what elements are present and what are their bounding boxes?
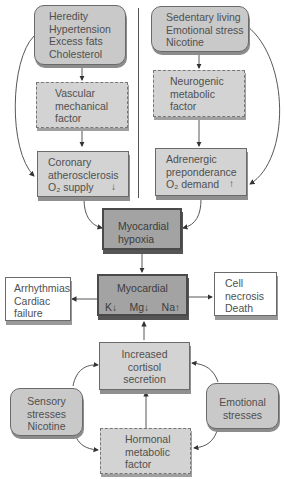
ion-list: K↓ Mg↓ Na↑ (99, 295, 186, 315)
node-necrosis-label: Cell necrosis Death (225, 277, 276, 315)
node-coronary: Coronary atherosclerosis O₂ supply ↓ (37, 151, 129, 197)
node-cortisol: Increased cortisol secretion (99, 342, 190, 390)
node-sensory: Sensory stresses Nicotine (10, 388, 83, 436)
ion-k: K↓ (105, 301, 117, 315)
node-vascular: Vascular mechanical factor (36, 82, 128, 128)
node-vascular-label: Vascular mechanical factor (55, 87, 127, 125)
node-emotional-label: Emotional stresses (207, 396, 278, 421)
node-hormonal-label: Hormonal metabolic factor (125, 433, 190, 471)
column-divider (138, 8, 139, 198)
node-coronary-label: Coronary atherosclerosis (48, 156, 128, 181)
node-adrenergic-label: Adrenergic preponderance (166, 153, 246, 178)
node-sedentary: Sedentary living Emotional stress Nicoti… (151, 6, 249, 52)
node-myocardial-hypoxia: Myocardial hypoxia (102, 208, 182, 250)
arrow-down-icon: ↓ (111, 181, 116, 194)
node-myocardial-label: Myocardial (99, 282, 186, 295)
node-neurogenic-label: Neurogenic metabolic factor (170, 75, 244, 113)
arrow-down-icon: ↓ (112, 302, 117, 313)
node-hypoxia-label: Myocardial hypoxia (118, 220, 180, 245)
node-coronary-supply: O₂ supply ↓ (48, 181, 128, 194)
ion-na: Na↑ (162, 301, 180, 315)
node-adrenergic-demand: O₂ demand ↑ (166, 178, 246, 191)
arrow-up-icon: ↑ (175, 302, 180, 313)
node-sensory-label: Sensory stresses Nicotine (11, 395, 82, 433)
ion-mg: Mg↓ (129, 301, 149, 315)
node-neurogenic: Neurogenic metabolic factor (153, 70, 245, 117)
arrow-up-icon: ↑ (229, 178, 234, 191)
node-sedentary-label: Sedentary living Emotional stress Nicoti… (166, 11, 248, 49)
node-adrenergic: Adrenergic preponderance O₂ demand ↑ (155, 148, 247, 196)
node-arrhythmias-label: Arrhythmias Cardiac failure (14, 282, 70, 320)
node-necrosis: Cell necrosis Death (214, 272, 277, 316)
arrow-down-icon: ↓ (144, 302, 149, 313)
node-heredity-label: Heredity Hypertension Excess fats Choles… (49, 10, 125, 60)
node-myocardial-ions: Myocardial K↓ Mg↓ Na↑ (97, 274, 188, 316)
node-cortisol-label: Increased cortisol secretion (100, 348, 189, 386)
node-arrhythmias: Arrhythmias Cardiac failure (5, 277, 71, 321)
node-emotional: Emotional stresses (206, 383, 279, 429)
node-hormonal: Hormonal metabolic factor (100, 428, 191, 474)
node-heredity: Heredity Hypertension Excess fats Choles… (34, 5, 126, 65)
